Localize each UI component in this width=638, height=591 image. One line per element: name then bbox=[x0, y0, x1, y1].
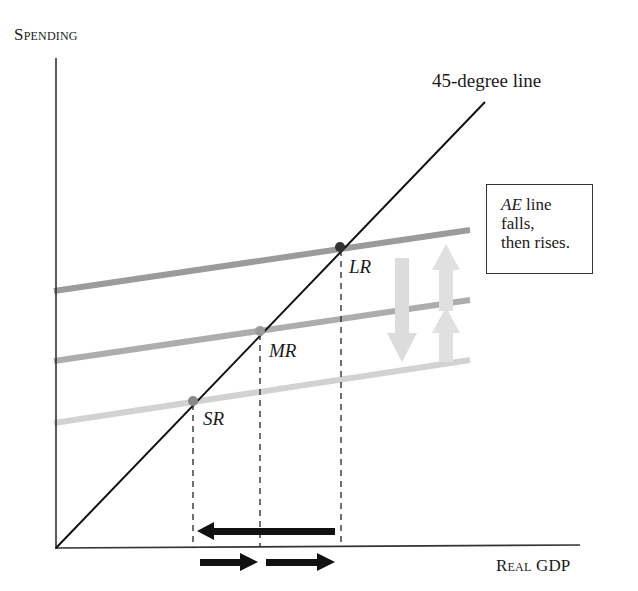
annotation-line-2: falls, bbox=[501, 214, 592, 233]
x-axis-label: Real GDP bbox=[496, 556, 571, 576]
arrow-left-icon bbox=[197, 522, 335, 540]
arrow-right-icon bbox=[200, 553, 258, 571]
x-axis bbox=[55, 545, 580, 548]
annotation-line-text: line bbox=[522, 195, 552, 214]
annotation-ae: AE bbox=[501, 195, 522, 214]
up-arrow-icon bbox=[432, 307, 460, 362]
annotation-line-3: then rises. bbox=[501, 233, 592, 252]
annotation-box: AE line falls, then rises. bbox=[486, 184, 593, 274]
annotation-line-1: AE line bbox=[501, 195, 592, 214]
point-sr bbox=[188, 396, 198, 406]
line-45-degree bbox=[56, 102, 485, 548]
diagram-canvas bbox=[0, 0, 638, 591]
point-label-sr: SR bbox=[203, 408, 224, 430]
y-axis-label: Spending bbox=[14, 25, 78, 45]
line-45-label: 45-degree line bbox=[432, 70, 541, 92]
point-lr bbox=[335, 242, 345, 252]
ae-line-bottom bbox=[54, 360, 470, 423]
arrow-right-icon bbox=[266, 553, 335, 571]
point-label-lr: LR bbox=[349, 256, 371, 278]
point-mr bbox=[255, 326, 265, 336]
point-label-mr: MR bbox=[269, 340, 296, 362]
